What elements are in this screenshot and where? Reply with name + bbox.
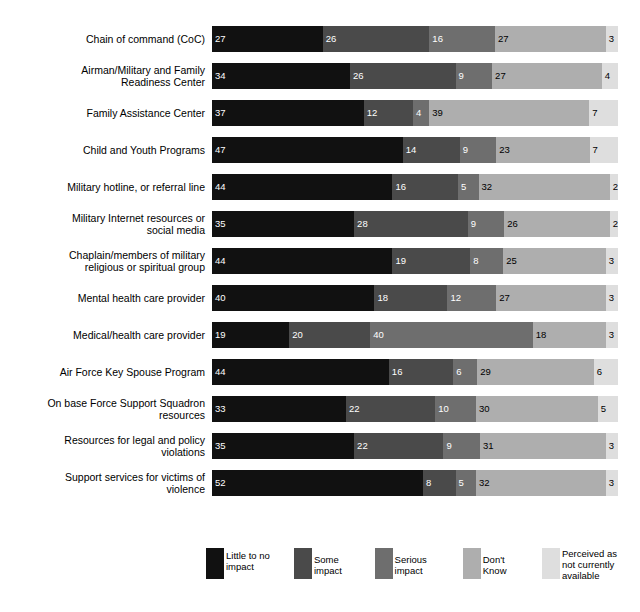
- bar-segment: 12: [364, 100, 413, 126]
- bar-segment: 7: [589, 100, 618, 126]
- bar-segment: 44: [212, 248, 392, 274]
- bar-segment: 9: [443, 433, 480, 459]
- segment-value: 7: [590, 145, 598, 155]
- segment-value: 10: [435, 404, 449, 414]
- bar-segment: 44: [212, 174, 392, 200]
- legend-item[interactable]: Don't Know: [463, 548, 514, 579]
- category-label: On base Force Support Squadron resources: [15, 396, 205, 422]
- segment-value: 33: [212, 404, 226, 414]
- segment-value: 16: [392, 182, 406, 192]
- stacked-bar: 401812273: [212, 285, 618, 311]
- segment-value: 12: [447, 293, 461, 303]
- category-label: Medical/health care provider: [15, 322, 205, 348]
- legend-item[interactable]: Serious impact: [375, 548, 437, 579]
- legend-item[interactable]: Perceived as not currently available: [542, 548, 628, 581]
- bar-segment: 16: [389, 359, 453, 385]
- chart-row: On base Force Support Squadron resources…: [0, 396, 640, 433]
- legend-item[interactable]: Some impact: [294, 548, 351, 579]
- chart-row: Chaplain/members of military religious o…: [0, 248, 640, 285]
- segment-value: 19: [212, 330, 226, 340]
- chart-row: Resources for legal and policy violation…: [0, 433, 640, 470]
- segment-value: 18: [533, 330, 547, 340]
- segment-value: 9: [443, 441, 451, 451]
- segment-value: 40: [370, 330, 384, 340]
- bar-segment: 32: [479, 174, 610, 200]
- segment-value: 23: [496, 145, 510, 155]
- bar-segment: 18: [533, 322, 606, 348]
- bar-segment: 34: [212, 63, 350, 89]
- segment-value: 29: [477, 367, 491, 377]
- segment-value: 16: [389, 367, 403, 377]
- category-label: Child and Youth Programs: [15, 137, 205, 163]
- bar-segment: 44: [212, 359, 389, 385]
- category-label: Family Assistance Center: [15, 100, 205, 126]
- bar-segment: 39: [429, 100, 589, 126]
- bar-segment: 10: [435, 396, 476, 422]
- segment-value: 4: [602, 71, 610, 81]
- bar-segment: 3: [606, 248, 618, 274]
- segment-value: 31: [480, 441, 494, 451]
- bar-segment: 26: [323, 26, 430, 52]
- stacked-bar: 47149237: [212, 137, 618, 163]
- segment-value: 3: [606, 478, 614, 488]
- bar-segment: 22: [354, 433, 443, 459]
- bar-segment: 23: [496, 137, 589, 163]
- stacked-bar: 37124397: [212, 100, 618, 126]
- segment-value: 27: [496, 293, 510, 303]
- legend-item[interactable]: Little to no impact: [206, 548, 274, 579]
- plot-area: Chain of command (CoC)272616273Airman/Mi…: [0, 26, 640, 507]
- category-label: Military hotline, or referral line: [15, 174, 205, 200]
- segment-value: 37: [212, 108, 226, 118]
- segment-value: 26: [504, 219, 518, 229]
- bar-segment: 6: [453, 359, 477, 385]
- segment-value: 7: [589, 108, 597, 118]
- segment-value: 27: [212, 34, 226, 44]
- bar-segment: 3: [606, 322, 618, 348]
- stacked-bar: 34269274: [212, 63, 618, 89]
- bar-segment: 5: [598, 396, 618, 422]
- bar-segment: 18: [374, 285, 447, 311]
- segment-value: 3: [606, 330, 614, 340]
- bar-segment: 4: [413, 100, 429, 126]
- bar-segment: 3: [606, 433, 618, 459]
- stacked-bar: 192040183: [212, 322, 618, 348]
- legend-swatch: [294, 548, 312, 579]
- legend-swatch: [375, 548, 393, 579]
- segment-value: 12: [364, 108, 378, 118]
- chart-row: Medical/health care provider192040183: [0, 322, 640, 359]
- stacked-bar: 44166296: [212, 359, 618, 385]
- segment-value: 22: [346, 404, 360, 414]
- bar-segment: 47: [212, 137, 403, 163]
- segment-value: 3: [606, 34, 614, 44]
- segment-value: 16: [429, 34, 443, 44]
- chart-row: Chain of command (CoC)272616273: [0, 26, 640, 63]
- chart-row: Child and Youth Programs47149237: [0, 137, 640, 174]
- segment-value: 25: [503, 256, 517, 266]
- stacked-bar: 35289262: [212, 211, 618, 237]
- bar-segment: 20: [289, 322, 370, 348]
- segment-value: 19: [392, 256, 406, 266]
- category-label: Airman/Military and Family Readiness Cen…: [15, 63, 205, 89]
- segment-value: 6: [594, 367, 602, 377]
- bar-segment: 8: [423, 470, 455, 496]
- segment-value: 5: [598, 404, 606, 414]
- segment-value: 35: [212, 441, 226, 451]
- category-label: Chain of command (CoC): [15, 26, 205, 52]
- category-label: Support services for victims of violence: [15, 470, 205, 496]
- bar-segment: 3: [606, 26, 618, 52]
- segment-value: 3: [606, 293, 614, 303]
- segment-value: 9: [460, 145, 468, 155]
- chart-row: Support services for victims of violence…: [0, 470, 640, 507]
- bar-segment: 27: [212, 26, 323, 52]
- bar-segment: 12: [447, 285, 496, 311]
- segment-value: 2: [610, 182, 618, 192]
- category-label: Air Force Key Spouse Program: [15, 359, 205, 385]
- segment-value: 14: [403, 145, 417, 155]
- legend-label: Don't Know: [481, 548, 514, 576]
- bar-segment: 16: [429, 26, 495, 52]
- segment-value: 6: [453, 367, 461, 377]
- category-label: Resources for legal and policy violation…: [15, 433, 205, 459]
- stacked-bar: 272616273: [212, 26, 618, 52]
- segment-value: 26: [350, 71, 364, 81]
- bar-segment: 9: [468, 211, 505, 237]
